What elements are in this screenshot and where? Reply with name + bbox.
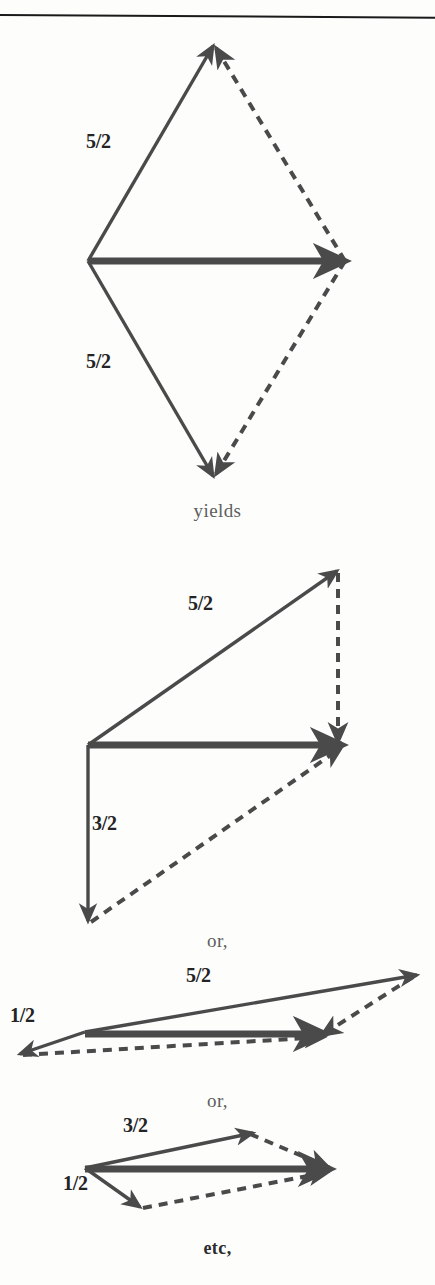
- dashed-vector-arrow: [91, 748, 341, 922]
- rhombus-vector-sum: [88, 46, 345, 476]
- vector-magnitude-label: 5/2: [186, 964, 211, 987]
- right-triangle-vector-sum: [88, 571, 342, 922]
- vector-magnitude-label: 1/2: [63, 1172, 88, 1195]
- dashed-vector-arrow: [250, 1134, 328, 1167]
- vector-magnitude-label: 3/2: [92, 812, 117, 835]
- shallow-parallelogram-vector-sum: [20, 975, 417, 1055]
- vector-magnitude-label: 5/2: [86, 130, 111, 153]
- solid-vector-arrow: [85, 1168, 140, 1207]
- vector-magnitude-label: 1/2: [10, 1004, 35, 1027]
- solid-vector-arrow: [85, 1133, 253, 1168]
- dashed-vector-arrow: [216, 48, 345, 261]
- dashed-vector-arrow: [216, 261, 345, 474]
- figure-page: yields or, or, etc, 5/25/25/23/25/21/23/…: [0, 0, 435, 1285]
- connector-etc: etc,: [0, 1238, 435, 1259]
- vector-magnitude-label: 3/2: [123, 1114, 148, 1137]
- solid-vector-arrow: [85, 975, 417, 1032]
- solid-vector-arrow: [88, 46, 213, 261]
- dashed-vector-arrow: [23, 1037, 324, 1055]
- connector-or-2: or,: [0, 1090, 435, 1112]
- dashed-vector-arrow: [322, 977, 413, 1035]
- vector-magnitude-label: 5/2: [86, 350, 111, 373]
- connector-yields: yields: [0, 500, 435, 522]
- flat-parallelogram-vector-sum: [85, 1133, 330, 1208]
- vector-magnitude-label: 5/2: [188, 592, 213, 615]
- dashed-vector-arrow: [143, 1172, 328, 1208]
- connector-or-1: or,: [0, 930, 435, 952]
